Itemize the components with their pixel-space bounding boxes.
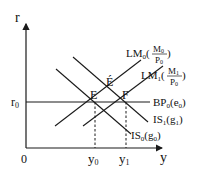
point-e-label: E [90, 88, 97, 102]
y1-label: y1 [119, 151, 130, 167]
svg-text:): ) [182, 69, 186, 82]
svg-text:LM1(: LM1( [141, 69, 165, 83]
svg-text:P0: P0 [170, 77, 178, 87]
y0-label: y0 [88, 151, 99, 167]
is1-curve [73, 57, 148, 122]
is-lm-bp-diagram: r y 0 r0 y0 y1 E É F LM0( M0 P0 ) LM1( … [0, 0, 200, 178]
svg-text:M1: M1 [168, 66, 179, 76]
svg-text:M0: M0 [153, 44, 164, 54]
lm1-label: LM1( M1 P0 ) [141, 66, 186, 87]
origin-label: 0 [21, 152, 27, 166]
point-e-prime-label: É [106, 75, 113, 89]
bp0-label: BP0(e0) [153, 96, 186, 110]
is0-label: IS0(g0) [131, 129, 161, 143]
svg-text:): ) [167, 47, 171, 60]
svg-text:P0: P0 [155, 55, 163, 65]
y-axis-label: r [15, 10, 20, 25]
x-axis-label: y [160, 150, 167, 165]
r0-label: r0 [11, 95, 19, 110]
is1-label: IS1(g1) [153, 113, 183, 127]
lm0-label: LM0( M0 P0 ) [126, 44, 171, 65]
point-f-label: F [122, 88, 129, 102]
svg-text:LM0(: LM0( [126, 47, 150, 61]
